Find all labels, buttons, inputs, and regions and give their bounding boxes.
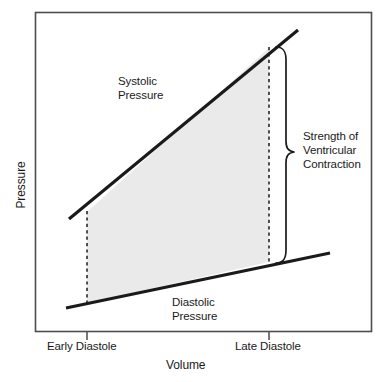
strength-of-ventricular-contraction-label: Strength ofVentricularContraction: [303, 129, 361, 171]
strength-label-line3: Contraction: [303, 158, 361, 170]
systolic-label-line1: Systolic: [118, 75, 157, 87]
shaded-region-stroke-volume: [87, 48, 269, 303]
xtick-label-early-diastole: Early Diastole: [47, 339, 117, 353]
systolic-label-line2: Pressure: [118, 89, 163, 101]
strength-label-line2: Ventricular: [303, 144, 356, 156]
diastolic-label-line2: Pressure: [172, 310, 217, 322]
x-axis-title: Volume: [166, 358, 205, 372]
diastolic-pressure-label: DiastolicPressure: [172, 295, 217, 323]
y-axis-title: Pressure: [14, 145, 28, 225]
xtick-label-late-diastole: Late Diastole: [235, 339, 301, 353]
pressure-volume-diagram: SystolicPressure DiastolicPressure Stren…: [0, 0, 388, 382]
strength-label-line1: Strength of: [303, 130, 358, 142]
diagram-canvas: [0, 0, 388, 382]
curly-brace-icon: [276, 47, 294, 263]
diastolic-label-line1: Diastolic: [172, 296, 215, 308]
systolic-pressure-label: SystolicPressure: [118, 74, 163, 102]
